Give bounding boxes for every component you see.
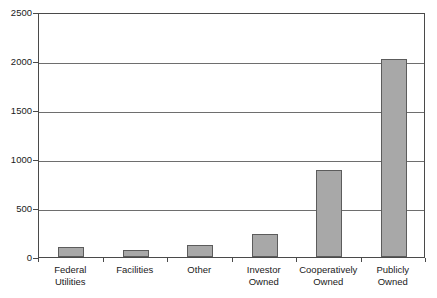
y-axis-tick-mark <box>33 62 38 63</box>
y-axis-tick-mark <box>33 209 38 210</box>
x-axis-tick-label: FederalUtilities <box>38 264 103 287</box>
bar <box>58 247 84 257</box>
plot-area <box>38 13 425 258</box>
bar <box>123 250 149 257</box>
y-axis: 05001000150020002500 <box>0 0 32 298</box>
bar-chart: 05001000150020002500 FederalUtilitiesFac… <box>0 0 437 298</box>
x-axis-tick-mark <box>361 258 362 262</box>
gridline <box>39 112 424 113</box>
x-axis-tick-label: PubliclyOwned <box>361 264 426 287</box>
x-axis-tick-label-line: Owned <box>361 276 426 288</box>
x-axis-tick-label-line: Facilities <box>103 264 168 276</box>
y-axis-tick-label: 500 <box>16 204 32 214</box>
y-axis-tick-label: 1500 <box>11 106 32 116</box>
y-axis-tick-label: 2500 <box>11 8 32 18</box>
y-axis-tick-mark <box>33 160 38 161</box>
x-axis-tick-label: Facilities <box>103 264 168 276</box>
x-axis-tick-label: CooperativelyOwned <box>296 264 361 287</box>
x-axis-tick-label-line: Other <box>167 264 232 276</box>
x-axis-tick-label-line: Publicly <box>361 264 426 276</box>
y-axis-tick-mark <box>33 13 38 14</box>
bar <box>381 59 407 257</box>
x-axis-tick-mark <box>167 258 168 262</box>
x-axis-tick-label: Other <box>167 264 232 276</box>
x-axis-tick-label-line: Owned <box>232 276 297 288</box>
y-axis-tick-mark <box>33 111 38 112</box>
x-axis-tick-label-line: Utilities <box>38 276 103 288</box>
x-axis-tick-mark <box>232 258 233 262</box>
x-axis-tick-label-line: Federal <box>38 264 103 276</box>
x-axis-tick-label-line: Cooperatively <box>296 264 361 276</box>
x-axis-tick-label-line: Investor <box>232 264 297 276</box>
y-axis-tick-mark <box>33 258 38 259</box>
gridline <box>39 161 424 162</box>
x-axis-tick-mark <box>425 258 426 262</box>
x-axis-tick-label: InvestorOwned <box>232 264 297 287</box>
bar <box>187 245 213 257</box>
x-axis-tick-mark <box>296 258 297 262</box>
gridline <box>39 63 424 64</box>
y-axis-tick-label: 1000 <box>11 155 32 165</box>
x-axis-tick-mark <box>103 258 104 262</box>
x-axis-tick-label-line: Owned <box>296 276 361 288</box>
y-axis-tick-label: 2000 <box>11 57 32 67</box>
gridline <box>39 210 424 211</box>
x-axis-tick-mark <box>38 258 39 262</box>
y-axis-tick-label: 0 <box>27 253 32 263</box>
bar <box>252 234 278 257</box>
bar <box>316 170 342 257</box>
